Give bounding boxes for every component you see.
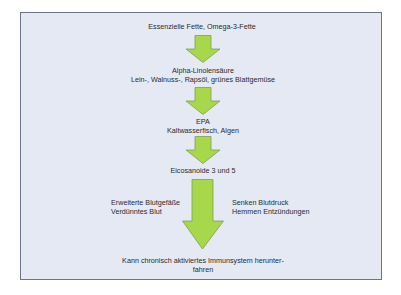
node-eicosanoids: Eicosanoide 3 und 5 bbox=[170, 166, 235, 175]
node-immune-system: Kann chronisch aktiviertes Immunsystem h… bbox=[122, 256, 284, 274]
side-note-left: Erweiterte Blutgefäße Verdünntes Blut bbox=[111, 198, 180, 216]
arrow-down-icon bbox=[185, 35, 221, 63]
arrow-down-large-icon bbox=[182, 179, 224, 250]
node-immune-system-line-2: fahren bbox=[122, 265, 284, 274]
side-note-right: Senken Blutdruck Hemmen Entzündungen bbox=[232, 198, 310, 216]
node-alpha-linolenic-acid-sources: Lein-, Walnuss-, Rapsöl, grünes Blattgem… bbox=[131, 75, 275, 84]
side-note-left-line-1: Erweiterte Blutgefäße bbox=[111, 198, 180, 207]
node-epa-sources: Kaltwasserfisch, Algen bbox=[167, 126, 239, 135]
node-alpha-linolenic-acid: Alpha-Linolensäure Lein-, Walnuss-, Raps… bbox=[131, 66, 275, 84]
side-note-right-line-2: Hemmen Entzündungen bbox=[232, 207, 310, 216]
node-immune-system-line-1: Kann chronisch aktiviertes Immunsystem h… bbox=[122, 256, 284, 265]
node-epa: EPA Kaltwasserfisch, Algen bbox=[167, 117, 239, 135]
node-essential-fats: Essenzielle Fette, Omega-3-Fette bbox=[148, 22, 255, 31]
node-essential-fats-line-1: Essenzielle Fette, Omega-3-Fette bbox=[148, 22, 255, 31]
side-note-left-line-2: Verdünntes Blut bbox=[111, 207, 180, 216]
arrow-down-icon bbox=[185, 87, 221, 115]
node-epa-title: EPA bbox=[167, 117, 239, 126]
node-alpha-linolenic-acid-title: Alpha-Linolensäure bbox=[131, 66, 275, 75]
node-eicosanoids-line-1: Eicosanoide 3 und 5 bbox=[170, 166, 235, 175]
arrow-down-icon bbox=[185, 136, 221, 164]
side-note-right-line-1: Senken Blutdruck bbox=[232, 198, 310, 207]
